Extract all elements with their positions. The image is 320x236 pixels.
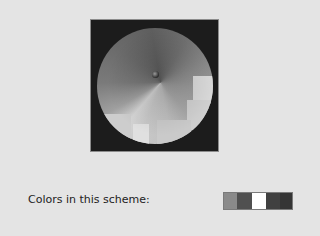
light-patch	[157, 120, 191, 144]
swatch-1	[224, 193, 237, 209]
swatch-2	[237, 193, 252, 209]
swatch-5	[280, 193, 292, 209]
light-patch	[187, 100, 213, 130]
light-patch	[101, 114, 131, 144]
center-pivot-icon	[152, 71, 159, 78]
scheme-preview	[90, 19, 219, 152]
color-swatch-strip	[223, 192, 293, 210]
light-patch	[133, 124, 149, 144]
light-patch	[193, 76, 213, 104]
swatch-3	[252, 193, 266, 209]
swatch-4	[266, 193, 280, 209]
preview-disc-image	[97, 28, 213, 144]
colors-caption: Colors in this scheme:	[28, 193, 150, 206]
